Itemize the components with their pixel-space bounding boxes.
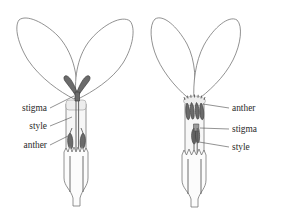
petal-right-outer-2 (194, 19, 241, 101)
stigma-base (75, 92, 80, 101)
label-style-right: style (232, 142, 250, 152)
leader-anther-left (50, 136, 68, 145)
petal-left-outer-2 (151, 18, 195, 101)
calyx (64, 146, 88, 206)
label-anther-left: anther (24, 140, 48, 150)
right-flower: anther stigma style (151, 18, 258, 207)
label-style-left: style (29, 121, 47, 131)
calyx-2 (182, 149, 206, 207)
label-stigma-left: stigma (22, 103, 48, 113)
leader-anther-right (203, 104, 229, 108)
left-flower: stigma style anther (17, 18, 133, 206)
petal-left-outer (17, 18, 77, 99)
diagram-canvas: stigma style anther (0, 0, 282, 209)
label-stigma-right: stigma (232, 124, 258, 134)
label-anther-right: anther (232, 103, 256, 113)
